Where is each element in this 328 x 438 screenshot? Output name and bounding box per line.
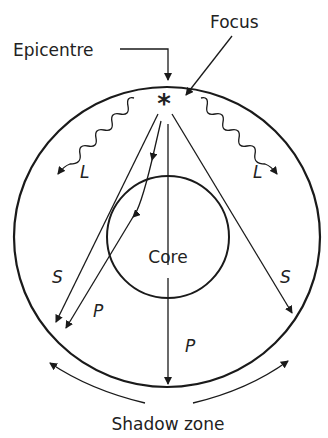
- shadow-zone-label: Shadow zone: [111, 414, 224, 434]
- epicentre-pointer: [120, 49, 168, 80]
- p-wave-left-upper: [152, 121, 161, 160]
- p-wave-label-center: P: [185, 336, 196, 356]
- p-wave-left-lower: [133, 160, 152, 217]
- s-wave-right: [172, 114, 292, 313]
- focus-label: Focus: [210, 12, 259, 32]
- seismic-wave-diagram: * L L S S P P Core Epicentre Focus Shado…: [0, 0, 328, 438]
- l-wave-left: [58, 98, 134, 174]
- focus-pointer: [186, 36, 232, 95]
- earth-outline: [14, 87, 320, 387]
- s-wave-label-left: S: [52, 267, 63, 287]
- epicentre-label: Epicentre: [13, 40, 94, 60]
- s-wave-left: [56, 114, 158, 322]
- l-wave-right: [201, 98, 277, 174]
- l-wave-label-left: L: [80, 162, 89, 182]
- l-wave-label-right: L: [253, 162, 262, 182]
- core-label: Core: [148, 247, 187, 267]
- s-wave-label-right: S: [280, 267, 291, 287]
- p-wave-label-left: P: [93, 301, 104, 321]
- focus-asterisk-icon: *: [157, 89, 171, 119]
